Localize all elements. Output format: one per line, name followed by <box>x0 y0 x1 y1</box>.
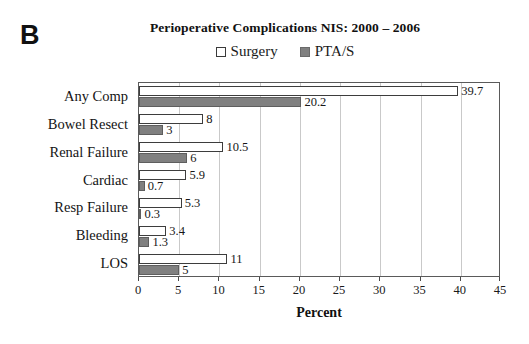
plot-area: 39.720.28310.565.90.75.30.33.41.3115 <box>138 82 500 277</box>
legend-item-pta-s: PTA/S <box>300 44 355 59</box>
x-axis-tick <box>138 277 139 281</box>
bar-value-label: 11 <box>227 251 242 266</box>
bar-rect <box>139 125 163 135</box>
y-axis-label-resp-failure: Resp Failure <box>54 200 128 215</box>
bar-value-label: 5.3 <box>182 195 201 210</box>
chart-title: Perioperative Complications NIS: 2000 – … <box>95 20 475 36</box>
x-axis-tick-labels: 051015202530354045 <box>138 283 500 301</box>
bar-surgery: 10.5 <box>139 142 223 152</box>
x-axis-tick-label: 25 <box>333 283 346 298</box>
y-axis-label-any-comp: Any Comp <box>64 89 128 104</box>
bar-group: 39.720.2 <box>139 83 499 111</box>
x-axis-tick-label: 5 <box>175 283 181 298</box>
x-axis-tick-label: 0 <box>135 283 141 298</box>
legend-item-label: Surgery <box>231 44 278 59</box>
x-axis-tick-label: 20 <box>293 283 306 298</box>
y-axis-label-bowel-resect: Bowel Resect <box>48 117 128 132</box>
y-axis-category-labels: Any CompBowel ResectRenal FailureCardiac… <box>0 82 134 277</box>
x-axis-tick-label: 45 <box>494 283 507 298</box>
bar-value-label: 8 <box>203 112 212 127</box>
bar-value-label: 20.2 <box>301 95 326 110</box>
bar-rect <box>139 142 223 152</box>
bar-surgery: 39.7 <box>139 86 458 96</box>
bar-pta-s: 20.2 <box>139 97 301 107</box>
x-axis-tick-label: 15 <box>252 283 265 298</box>
bar-rect <box>139 153 187 163</box>
bar-pta-s: 3 <box>139 125 163 135</box>
bar-value-label: 10.5 <box>223 140 248 155</box>
bar-group: 3.41.3 <box>139 222 499 250</box>
bar-pta-s: 6 <box>139 153 187 163</box>
x-axis-tick <box>339 277 340 281</box>
bar-group: 83 <box>139 111 499 139</box>
bar-pta-s: 0.3 <box>139 209 141 219</box>
legend-item-label: PTA/S <box>315 44 355 59</box>
bar-value-label: 0.7 <box>145 178 164 193</box>
x-axis-tick <box>420 277 421 281</box>
bar-value-label: 5.9 <box>186 167 205 182</box>
bar-group: 115 <box>139 250 499 278</box>
bar-pta-s: 1.3 <box>139 237 149 247</box>
bar-rect <box>139 86 458 96</box>
bar-rect <box>139 97 301 107</box>
x-axis-tick <box>218 277 219 281</box>
bar-rect <box>139 265 179 275</box>
bar-group: 10.56 <box>139 139 499 167</box>
x-axis-tick <box>299 277 300 281</box>
bar-value-label: 5 <box>179 262 188 277</box>
chart-legend: SurgeryPTA/S <box>95 44 475 59</box>
x-axis-tick <box>259 277 260 281</box>
bar-group: 5.90.7 <box>139 167 499 195</box>
filled-square-icon <box>300 47 310 57</box>
y-axis-label-bleeding: Bleeding <box>76 228 128 243</box>
x-axis-tick <box>499 277 500 281</box>
bar-rect <box>139 237 149 247</box>
x-axis-title: Percent <box>138 305 500 321</box>
y-axis-label-los: LOS <box>101 256 128 271</box>
bar-value-label: 3.4 <box>166 223 185 238</box>
x-axis-tick-label: 30 <box>373 283 386 298</box>
open-square-icon <box>216 47 226 57</box>
x-axis-tick-label: 10 <box>212 283 225 298</box>
bar-value-label: 6 <box>187 151 196 166</box>
x-axis-tick <box>460 277 461 281</box>
bar-value-label: 0.3 <box>141 206 160 221</box>
bar-value-label: 39.7 <box>458 84 483 99</box>
bar-value-label: 3 <box>163 123 172 138</box>
chart-figure: B Perioperative Complications NIS: 2000 … <box>0 0 529 344</box>
bar-groups: 39.720.28310.565.90.75.30.33.41.3115 <box>139 83 499 276</box>
x-axis-tick <box>379 277 380 281</box>
x-axis-tick-label: 40 <box>454 283 467 298</box>
legend-item-surgery: Surgery <box>216 44 278 59</box>
bar-value-label: 1.3 <box>149 234 168 249</box>
panel-label: B <box>20 22 40 49</box>
y-axis-label-cardiac: Cardiac <box>83 173 128 188</box>
bar-pta-s: 5 <box>139 265 179 275</box>
x-axis-tick <box>178 277 179 281</box>
bar-group: 5.30.3 <box>139 194 499 222</box>
y-axis-label-renal-failure: Renal Failure <box>49 145 128 160</box>
x-axis-tick-label: 35 <box>413 283 426 298</box>
bar-pta-s: 0.7 <box>139 181 145 191</box>
